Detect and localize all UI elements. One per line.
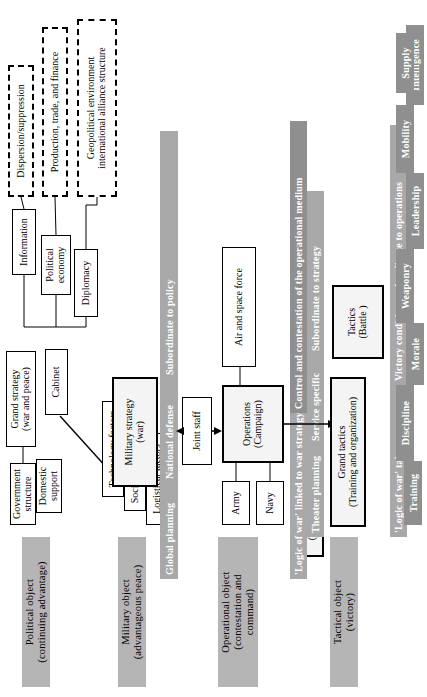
weaponry-label: Weaponry [400,263,411,309]
attr-bar-morale: Morale [406,323,424,385]
diagram-canvas: Political object (continuing advantage) … [0,0,427,697]
mobility-label: Mobility [400,120,411,158]
attr-bar-discipline: Discipline [396,385,414,461]
attr-bar-mobility: Mobility [396,105,414,173]
attr-bar-supply: Supply [396,33,414,93]
leadership-label: Leadership [410,186,421,236]
attr-bar-training: Training [404,461,422,525]
grand-tactics-line2: (Training and organization) [348,397,359,507]
discipline-label: Discipline [400,401,411,445]
box-grand-tactics: Grand tactics (Training and organization… [330,377,366,527]
morale-label: Morale [410,338,421,370]
attr-bar-leadership: Leadership [406,173,424,249]
attr-bar-weaponry: Weaponry [396,249,414,323]
rotated-diagram-root: Political object (continuing advantage) … [0,0,427,697]
supply-label: Supply [400,47,411,78]
object-bar-tactical-line1: Tactical object [332,580,344,644]
box-tactics-battle: Tactics (Battle ) [332,285,384,359]
tactics-line2: (Battle ) [358,305,369,338]
training-label: Training [408,474,419,513]
object-bar-tactical: Tactical object (victory) [330,537,358,687]
object-bar-tactical-line2: (victory) [344,593,356,632]
